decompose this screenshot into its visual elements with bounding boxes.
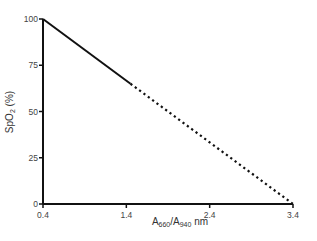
solid-line [43,19,131,84]
data-series [43,19,293,204]
y-axis-ticks: 0255075100 [24,14,43,209]
chart: 0255075100 0.41.42.43.4 A660/A940 nm SpO… [0,0,317,241]
y-tick-label: 100 [24,14,38,24]
dotted-line [131,84,294,204]
x-tick-label: 3.4 [287,210,299,220]
y-tick-label: 50 [29,107,39,117]
y-tick-label: 25 [29,153,39,163]
x-tick-label: 0.4 [37,210,49,220]
y-tick-label: 75 [29,60,39,70]
x-axis-label: A660/A940 nm [152,216,208,228]
y-axis-label: SpO2 (%) [4,91,16,133]
x-tick-label: 1.4 [120,210,132,220]
y-tick-label: 0 [33,199,38,209]
x-axis-ticks: 0.41.42.43.4 [37,204,299,220]
